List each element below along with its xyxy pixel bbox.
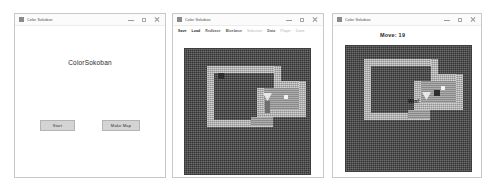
window-editor[interactable]: Color Sokoban Save Load Redbase Bluebase… — [172, 13, 324, 178]
wall-segment — [257, 88, 264, 113]
player-stem — [265, 101, 270, 113]
game-board[interactable]: Win! — [345, 45, 472, 172]
maximize-icon[interactable] — [457, 17, 463, 23]
wall-segment — [364, 59, 438, 66]
minimize-icon[interactable] — [444, 17, 450, 23]
window-controls[interactable] — [286, 17, 321, 23]
start-button[interactable]: Start — [40, 120, 75, 131]
wall-segment — [364, 59, 371, 120]
goal-marker — [441, 86, 445, 90]
minimize-icon[interactable] — [286, 17, 292, 23]
titlebar[interactable]: Color Sokoban — [333, 14, 481, 26]
app-icon — [337, 17, 342, 22]
menu-item-redbase[interactable]: Redbase — [205, 29, 220, 33]
window-game[interactable]: Color Sokoban Move: 19 — [332, 13, 482, 178]
game-board[interactable] — [184, 48, 311, 175]
floor-tile — [408, 110, 430, 119]
menu-item-selection[interactable]: Selection — [247, 29, 262, 33]
menu-item-bluebase[interactable]: Bluebase — [226, 29, 242, 33]
wall-segment — [207, 66, 214, 127]
maximize-icon[interactable] — [141, 17, 147, 23]
close-icon[interactable] — [312, 17, 318, 23]
titlebar[interactable]: Color Sokoban — [173, 14, 323, 26]
floor-tile — [251, 117, 273, 126]
app-icon — [177, 17, 182, 22]
goal-marker — [284, 95, 288, 99]
window-controls[interactable] — [128, 17, 163, 23]
menu-item-player[interactable]: Player — [280, 29, 291, 33]
wall-segment — [414, 103, 463, 110]
window-menu[interactable]: Color Sokoban ColorSokoban Start Make Ma… — [14, 13, 166, 178]
close-icon[interactable] — [154, 17, 160, 23]
menu-item-data[interactable]: Data — [267, 29, 275, 33]
window-title: Color Sokoban — [345, 18, 444, 22]
box[interactable] — [218, 73, 224, 79]
menu-bar[interactable]: Save Load Redbase Bluebase Selection Dat… — [173, 26, 323, 35]
menu-item-save[interactable]: Save — [178, 29, 187, 33]
window-controls[interactable] — [444, 17, 479, 23]
make-map-button[interactable]: Make Map — [102, 120, 140, 131]
app-icon — [19, 17, 24, 22]
minimize-icon[interactable] — [128, 17, 134, 23]
win-label: Win! — [408, 98, 419, 104]
box[interactable] — [434, 90, 440, 96]
wall-segment — [207, 66, 281, 73]
screenshot-stage: Color Sokoban ColorSokoban Start Make Ma… — [0, 0, 494, 191]
move-counter: Move: 19 — [380, 32, 405, 38]
page-title: ColorSokoban — [15, 59, 165, 66]
window-body — [173, 35, 323, 177]
window-body: Move: 19 Win! — [333, 26, 481, 177]
titlebar[interactable]: Color Sokoban — [15, 14, 165, 26]
button-row: Start Make Map — [15, 120, 165, 131]
window-body: ColorSokoban Start Make Map — [15, 26, 165, 177]
window-title: Color Sokoban — [27, 18, 128, 22]
menu-item-done[interactable]: Done — [296, 29, 305, 33]
close-icon[interactable] — [470, 17, 476, 23]
menu-item-load[interactable]: Load — [192, 29, 201, 33]
maximize-icon[interactable] — [299, 17, 305, 23]
window-title: Color Sokoban — [185, 18, 286, 22]
